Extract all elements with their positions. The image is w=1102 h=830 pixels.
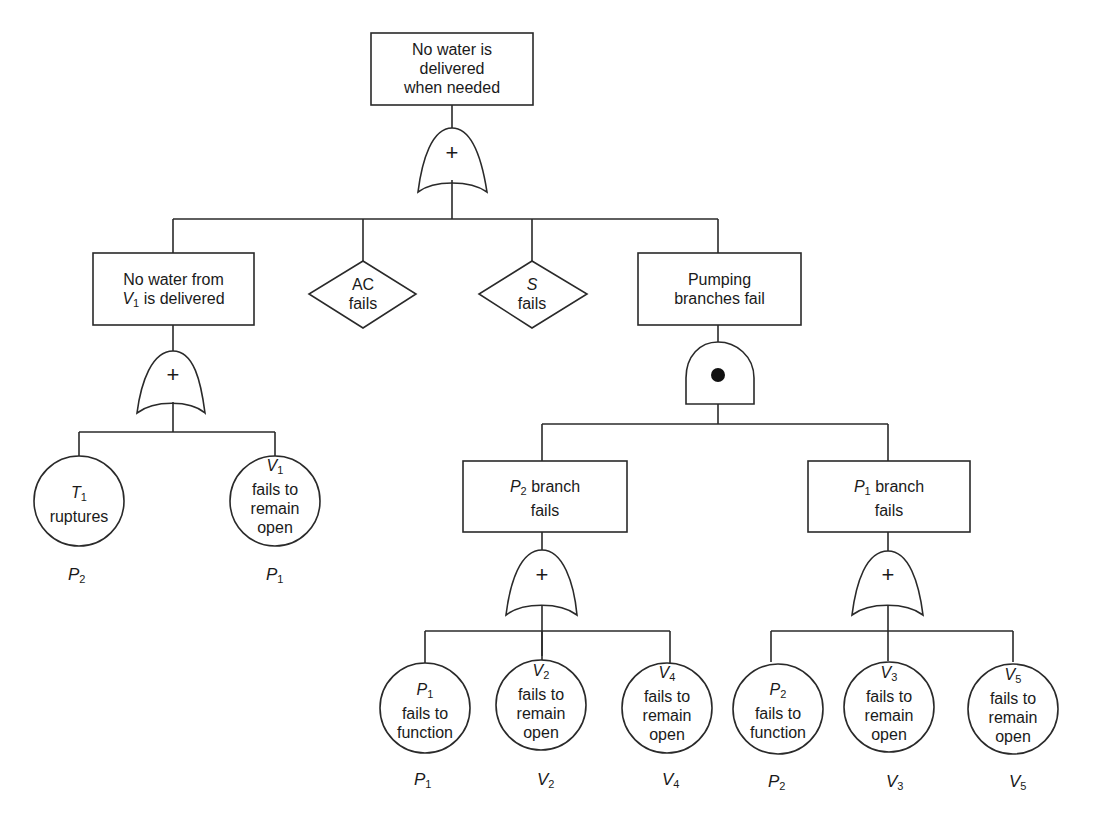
or-gate-symbol: + [161,365,185,384]
probability-label: P2 [768,772,785,792]
v3-fails-label: V3 fails to remain open [844,663,934,744]
p1-fails-to-function-label: P1 fails to function [380,680,470,742]
probability-label: P1 [414,770,431,790]
v1-fails-label: V1 fails to remain open [230,456,320,537]
v4-fails-label: V4 fails to remain open [622,663,712,744]
or-gate-symbol: + [876,565,900,584]
and-dot-icon [711,368,725,382]
probability-label: V5 [1009,772,1026,792]
or-gate-symbol: + [440,143,464,162]
probability-label: V4 [662,770,679,790]
ac-fails-label: AC fails [323,275,403,313]
p2-branch-label: P2 branch fails [463,477,627,520]
s-fails-label: S fails [492,275,572,313]
or-gate-symbol: + [530,565,554,584]
p1-branch-label: P1 branch fails [808,477,970,520]
v5-fails-label: V5 fails to remain open [968,665,1058,746]
probability-label: P1 [266,565,283,585]
top-event-label: No water is delivered when needed [371,40,533,97]
probability-label: P2 [68,565,85,585]
v1-branch-label: No water from V1 is delivered [93,270,254,313]
v2-fails-label: V2 fails to remain open [496,661,586,742]
probability-label: V2 [537,770,554,790]
probability-label: V3 [886,772,903,792]
pumping-branches-label: Pumping branches fail [638,270,801,308]
t1-ruptures-label: T1 ruptures [34,483,124,526]
p2-fails-to-function-label: P2 fails to function [733,680,823,742]
